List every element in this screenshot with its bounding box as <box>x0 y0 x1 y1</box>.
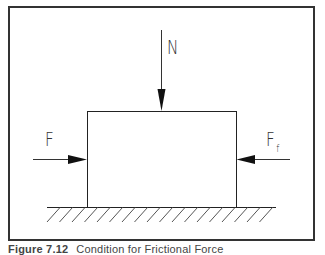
friction-force-label: Ff <box>266 130 279 149</box>
normal-force-arrow-icon <box>158 30 166 111</box>
figure-caption: Figure 7.12Condition for Frictional Forc… <box>8 243 224 255</box>
figure-caption-text: Condition for Frictional Force <box>76 243 223 255</box>
figure-number: Figure 7.12 <box>8 243 68 255</box>
applied-force-arrow-icon <box>33 155 87 164</box>
normal-force-label: N <box>167 38 178 57</box>
friction-force-arrow-icon <box>237 155 291 164</box>
applied-force-label: F <box>45 130 54 149</box>
friction-force-label-main: F <box>266 128 275 150</box>
block <box>88 112 237 208</box>
ground-hatching <box>47 208 273 223</box>
friction-force-label-subscript: f <box>276 142 279 155</box>
